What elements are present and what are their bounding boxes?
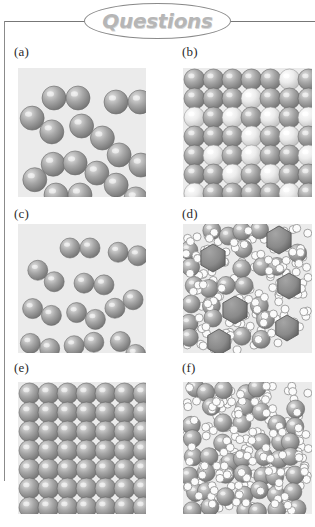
panel-label-c: (c) (14, 206, 29, 222)
figure-panel-e (18, 382, 146, 514)
panel-label-e: (e) (14, 360, 29, 376)
panel-label-f: (f) (182, 360, 196, 376)
figure-panel-f (183, 382, 312, 514)
page-title: Questions (84, 3, 231, 39)
page-header: Questions (0, 0, 315, 42)
figure-panel-d (183, 224, 312, 353)
figure-panel-b (183, 68, 312, 197)
figure-panel-a (18, 68, 146, 197)
panel-label-a: (a) (14, 44, 29, 60)
page-left-rule (4, 21, 5, 481)
panel-label-b: (b) (182, 44, 198, 60)
figure-panel-c (18, 224, 146, 353)
panel-label-d: (d) (182, 206, 198, 222)
